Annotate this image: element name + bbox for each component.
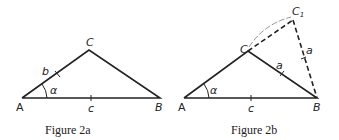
arc-c-c1 bbox=[249, 17, 291, 47]
side-c-label: c bbox=[88, 102, 94, 115]
diagram-canvas: A C B b c α Figure 2a A C C1 B a a c α F… bbox=[0, 0, 339, 140]
vertex-b-label: B bbox=[155, 101, 163, 114]
figure-caption: Figure 2b bbox=[231, 123, 277, 137]
angle-arc bbox=[204, 84, 209, 98]
angle-arc bbox=[42, 84, 47, 98]
figure-2b: A C C1 B a a c α Figure 2b bbox=[178, 5, 321, 137]
side-a-label: a bbox=[276, 59, 283, 72]
triangle-abc bbox=[184, 51, 317, 98]
vertex-c-label: C bbox=[86, 36, 94, 49]
side-c-label: c bbox=[248, 102, 254, 115]
figure-caption: Figure 2a bbox=[45, 123, 91, 137]
side-a-dashed-label: a bbox=[306, 44, 313, 57]
vertex-c1-label: C1 bbox=[292, 5, 304, 19]
vertex-b-label: B bbox=[313, 101, 321, 114]
dashed-c1b bbox=[293, 20, 317, 98]
dashed-cc1 bbox=[248, 20, 293, 51]
angle-alpha-label: α bbox=[50, 84, 58, 97]
vertex-a-label: A bbox=[178, 101, 186, 114]
side-b-label: b bbox=[42, 65, 49, 78]
vertex-c-label: C bbox=[240, 43, 248, 56]
angle-alpha-label: α bbox=[210, 84, 218, 97]
figure-2a: A C B b c α Figure 2a bbox=[16, 36, 163, 137]
vertex-a-label: A bbox=[16, 101, 24, 114]
